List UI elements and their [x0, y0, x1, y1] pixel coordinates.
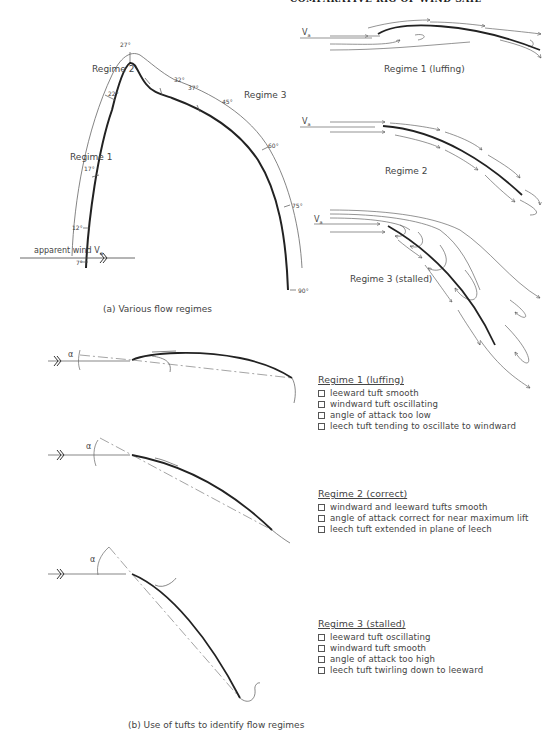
- checkbox-icon: [318, 401, 325, 408]
- regime3-item: angle of attack too high: [318, 654, 483, 665]
- flow-regime2-label: Regime 2: [385, 166, 428, 176]
- regime-1-label: Regime 1: [70, 152, 113, 162]
- part-b-caption: (b) Use of tufts to identify flow regime…: [128, 720, 305, 730]
- regime3-item: windward tuft smooth: [318, 643, 483, 654]
- angle-7: 7°: [76, 259, 83, 266]
- svg-text:Va: Va: [302, 117, 311, 127]
- regime3-item: leeward tuft oscillating: [318, 632, 483, 643]
- regime-3-label: Regime 3: [244, 90, 287, 100]
- regime1-panel: Regime 1 (luffing) leeward tuft smooth w…: [318, 374, 516, 432]
- tuft-sail-regime2: α: [48, 438, 290, 543]
- checkbox-icon: [318, 656, 325, 663]
- checkbox-icon: [318, 390, 325, 397]
- checkbox-icon: [318, 667, 325, 674]
- flow-regime1: Va Regime 1 (luffing): [300, 20, 541, 74]
- checkbox-icon: [318, 412, 325, 419]
- regime2-item: windward and leeward tufts smooth: [318, 502, 528, 513]
- angle-45: 45°: [222, 98, 233, 105]
- angle-90: 90°: [298, 287, 309, 294]
- regime2-item: angle of attack correct for near maximum…: [318, 513, 528, 524]
- regime2-item: leech tuft extended in plane of leech: [318, 524, 528, 535]
- flow-regime2: Va Regime 2: [300, 117, 540, 215]
- regime-curve: 7° 12° 17° 22° 27° 32° 37° 45° 60° 75° 9…: [20, 41, 309, 294]
- checkbox-icon: [318, 504, 325, 511]
- part-a-caption: (a) Various flow regimes: [103, 304, 212, 314]
- angle-12: 12°: [72, 224, 83, 231]
- checkbox-icon: [318, 515, 325, 522]
- apparent-wind-label: apparent wind Va: [34, 246, 103, 256]
- regime2-title: Regime 2 (correct): [318, 488, 528, 499]
- angle-27: 27°: [120, 41, 131, 48]
- alpha-symbol: α: [86, 442, 91, 451]
- tuft-sail-regime1: α: [48, 350, 295, 403]
- angle-17: 17°: [84, 165, 95, 172]
- checkbox-icon: [318, 423, 325, 430]
- regime3-panel: Regime 3 (stalled) leeward tuft oscillat…: [318, 618, 483, 676]
- flow-regime1-label: Regime 1 (luffing): [384, 64, 465, 74]
- flow-regime3-label: Regime 3 (stalled): [350, 274, 432, 284]
- angle-75: 75°: [292, 202, 303, 209]
- angle-37: 37°: [188, 84, 199, 91]
- regime2-panel: Regime 2 (correct) windward and leeward …: [318, 488, 528, 535]
- regime3-item: leech tuft twirling down to leeward: [318, 665, 483, 676]
- alpha-symbol: α: [68, 350, 73, 359]
- regime1-item: angle of attack too low: [318, 410, 516, 421]
- flow-regime3: Va Regime 3 (stalled): [314, 210, 540, 388]
- regime1-item: leeward tuft smooth: [318, 388, 516, 399]
- checkbox-icon: [318, 634, 325, 641]
- tuft-sail-regime3: α: [48, 547, 260, 701]
- regime1-item: windward tuft oscillating: [318, 399, 516, 410]
- regime1-title: Regime 1 (luffing): [318, 374, 516, 385]
- angle-60: 60°: [268, 142, 279, 149]
- angle-32: 32°: [174, 76, 185, 83]
- angle-22: 22°: [108, 90, 119, 97]
- alpha-symbol: α: [90, 555, 95, 564]
- svg-text:Va: Va: [302, 28, 311, 38]
- regime3-title: Regime 3 (stalled): [318, 618, 483, 629]
- svg-text:Va: Va: [314, 215, 323, 225]
- checkbox-icon: [318, 645, 325, 652]
- regime1-item: leech tuft tending to oscillate to windw…: [318, 421, 516, 432]
- regime-2-label: Regime 2: [92, 64, 135, 74]
- checkbox-icon: [318, 526, 325, 533]
